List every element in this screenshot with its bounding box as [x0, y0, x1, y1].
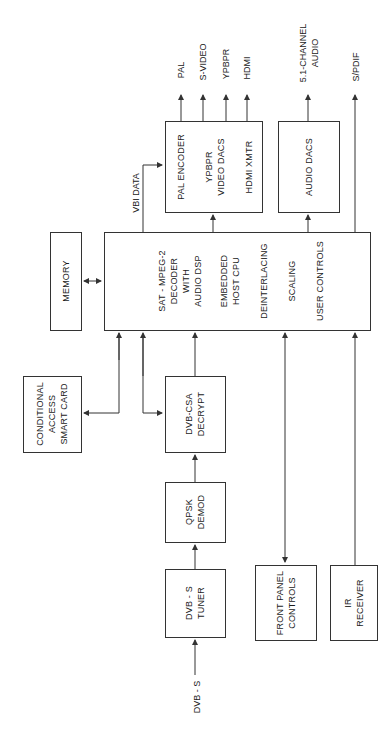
hdmi-xmtr-label: HDMI XMTR — [243, 141, 255, 194]
memory-label: MEMORY — [60, 260, 72, 302]
input-dvbs-label: DVB - S — [191, 681, 203, 714]
deinterlacing-label: DEINTERLACING — [258, 243, 270, 319]
spdif-label: S/PDIF — [350, 52, 362, 81]
output-pal-label: PAL — [175, 62, 187, 78]
ypbpr-dacs-label: YPBPR VIDEO DACS — [203, 138, 227, 196]
output-hdmi-label: HDMI — [241, 57, 253, 80]
user-controls-label: USER CONTROLS — [314, 241, 326, 321]
pal-encoder-label: PAL ENCODER — [175, 134, 187, 200]
ir-receiver-label: IR RECEIVER — [342, 579, 366, 627]
tuner-label: DVB - S TUNER — [183, 586, 207, 620]
vbi-data-label: VBI DATA — [130, 173, 142, 213]
qpsk-label: QPSK DEMOD — [183, 495, 207, 530]
scaling-label: SCALING — [286, 261, 298, 302]
output-ypbpr-label: YPBPR — [220, 49, 232, 80]
host-cpu-label: EMBEDDED HOST CPU — [218, 255, 242, 308]
decrypt-label: DVB-CSA DECRYPT — [183, 392, 207, 436]
smart-card-label: CONDITIONAL ACCESS SMART CARD — [34, 382, 70, 446]
decoder-label: SAT - MPEG-2 DECODER WITH AUDIO DSP — [156, 250, 204, 312]
audio-out-label: 5.1-CHANNEL AUDIO — [297, 24, 321, 83]
output-svideo-label: S-VIDEO — [197, 43, 209, 80]
audio-dacs-label: AUDIO DACS — [303, 138, 315, 196]
front-panel-label: FRONT PANEL CONTROLS — [274, 571, 298, 635]
